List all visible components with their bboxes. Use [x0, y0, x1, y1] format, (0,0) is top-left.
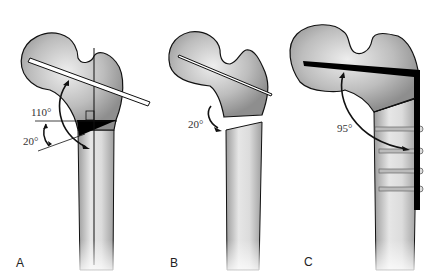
angle-label-110: 110° [31, 106, 52, 118]
panel-label-c: C [304, 255, 313, 269]
rotation-arrow [208, 106, 218, 128]
panel-a: 110° 20° [21, 33, 150, 270]
panel-b: 20° [169, 32, 272, 270]
femur-shaft [226, 122, 262, 270]
panel-label-a: A [16, 256, 24, 270]
screw-3 [379, 169, 417, 173]
panel-label-b: B [170, 256, 178, 270]
screw-1 [375, 127, 417, 131]
angle-label-95: 95° [337, 122, 352, 134]
femur-shaft [374, 98, 417, 270]
screw-4 [379, 187, 417, 191]
angle-label-20: 20° [23, 135, 38, 147]
screw-2 [379, 149, 417, 153]
panel-c: 95° [290, 25, 423, 270]
angle-label-20: 20° [188, 118, 203, 130]
femur-shaft [78, 130, 114, 270]
femur-osteotomy-diagram: 110° 20° 20° [0, 0, 436, 279]
